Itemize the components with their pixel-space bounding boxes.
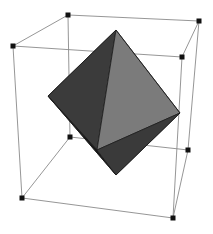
cube-vertex-bottom-front-left: [20, 196, 25, 201]
cube-vertex-top-front-right: [180, 55, 185, 60]
cube-vertex-bottom-front-right: [171, 216, 176, 221]
figure-canvas: [0, 0, 213, 234]
cube-vertex-top-front-left: [11, 44, 16, 49]
cube-vertex-bottom-back-right: [186, 148, 191, 153]
octahedron-in-cube-figure: [0, 0, 213, 234]
cube-vertex-bottom-back-left: [68, 135, 73, 140]
cube-vertex-top-back-right: [197, 19, 202, 24]
cube-vertex-top-back-left: [66, 13, 71, 18]
